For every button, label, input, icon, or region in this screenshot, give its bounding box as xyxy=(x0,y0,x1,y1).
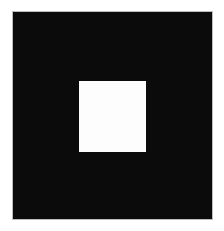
white-square xyxy=(79,81,146,152)
black-square xyxy=(13,12,212,219)
